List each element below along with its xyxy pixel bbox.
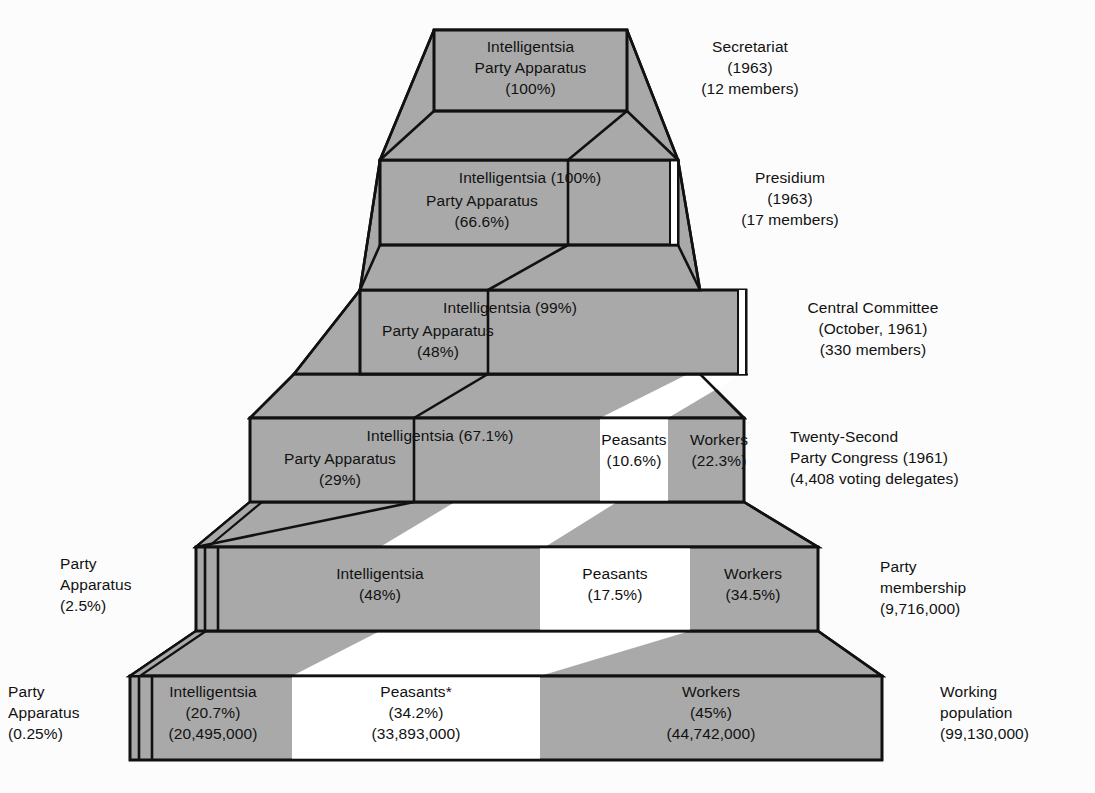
tier4-peasants-label: Peasants (10.6%) xyxy=(592,430,676,472)
pyramid-diagram: Intelligentsia Party Apparatus (100%) Se… xyxy=(0,0,1095,793)
tier1-block-label: Intelligentsia Party Apparatus (100%) xyxy=(434,37,627,100)
tier5-right-label: Party membership (9,716,000) xyxy=(880,557,1080,620)
tier3-right-label: Central Committee (October, 1961) (330 m… xyxy=(758,298,988,361)
tier5-intelligentsia-label: Intelligentsia (48%) xyxy=(260,564,500,606)
tier6-left-label: Party Apparatus (0.25%) xyxy=(8,682,158,745)
tier4-top-surface xyxy=(250,374,744,418)
tier4-workers-label: Workers (22.3%) xyxy=(676,430,762,472)
tier5-peasants-label: Peasants (17.5%) xyxy=(540,564,690,606)
tier5-left-label: Party Apparatus (2.5%) xyxy=(60,554,210,617)
tier6-right-label: Working population (99,130,000) xyxy=(940,682,1095,745)
tier6-top-surface xyxy=(130,631,882,676)
tier2-right-label: Presidium (1963) (17 members) xyxy=(690,168,890,231)
tier3-party-apparatus-label: Party Apparatus (48%) xyxy=(338,321,538,363)
tier5-workers-label: Workers (34.5%) xyxy=(688,564,818,606)
tier6-peasants-label: Peasants* (34.2%) (33,893,000) xyxy=(292,682,540,745)
tier2-intelligentsia-label: Intelligentsia (100%) xyxy=(390,168,670,189)
tier2-party-apparatus-label: Party Apparatus (66.6%) xyxy=(382,191,582,233)
tier4-intelligentsia-label: Intelligentsia (67.1%) xyxy=(300,426,580,447)
tier1-right-label: Secretariat (1963) (12 members) xyxy=(640,37,860,100)
tier6-workers-label: Workers (45%) (44,742,000) xyxy=(540,682,882,745)
tier4-right-label: Twenty-Second Party Congress (1961) (4,4… xyxy=(790,427,1080,490)
pyramid-svg xyxy=(0,0,1095,793)
tier5-top-surface xyxy=(196,502,818,547)
tier4-party-apparatus-label: Party Apparatus (29%) xyxy=(240,449,440,491)
tier3-intelligentsia-label: Intelligentsia (99%) xyxy=(370,298,650,319)
